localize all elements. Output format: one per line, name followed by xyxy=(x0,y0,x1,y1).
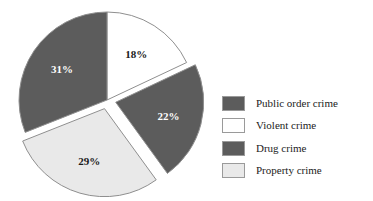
pie-slice-value-label-drug-crime: 22% xyxy=(158,110,180,122)
pie-slice-value-label-public-order-crime: 31% xyxy=(51,63,73,75)
pie-slice-value-label-property-crime: 29% xyxy=(78,155,100,167)
legend-item-violent-crime[interactable]: Violent crime xyxy=(222,115,372,138)
legend-label-violent-crime: Violent crime xyxy=(256,120,316,131)
chart-legend: Public order crime Violent crime Drug cr… xyxy=(222,92,372,182)
legend-item-drug-crime[interactable]: Drug crime xyxy=(222,137,372,160)
legend-swatch-icon-property-crime xyxy=(222,163,245,178)
pie-slice-value-label-violent-crime: 18% xyxy=(125,48,147,60)
legend-label-property-crime: Property crime xyxy=(256,165,322,176)
legend-swatch-icon-drug-crime xyxy=(222,141,245,156)
legend-item-property-crime[interactable]: Property crime xyxy=(222,160,372,183)
legend-label-public-order-crime: Public order crime xyxy=(256,98,338,109)
pie-chart-plot-area: 18%22%29%31% xyxy=(0,0,215,201)
legend-swatch-icon-violent-crime xyxy=(222,118,245,133)
pie-chart-svg: 18%22%29%31% xyxy=(0,0,215,201)
pie-chart-figure: 18%22%29%31% Public order crime Violent … xyxy=(0,0,373,201)
legend-item-public-order-crime[interactable]: Public order crime xyxy=(222,92,372,115)
pie-slice-group xyxy=(19,12,204,197)
legend-label-drug-crime: Drug crime xyxy=(256,143,306,154)
legend-swatch-icon-public-order-crime xyxy=(222,96,245,111)
